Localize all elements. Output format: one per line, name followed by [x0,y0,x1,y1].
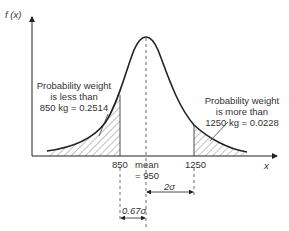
right-annotation: Probability weight is more than 1250 kg … [198,95,286,128]
span-label-2sigma: 2σ [164,181,175,192]
y-axis-label: f (x) [5,9,21,20]
left-annotation-line: 850 kg = 0.2514 [30,102,118,113]
tick-mean: mean [135,159,159,170]
tick-mean-value: = 950 [135,170,159,181]
span-label-067sigma: 0.67σ [122,205,146,216]
left-annotation-line: is less than [30,91,118,102]
left-annotation-line: Probability weight [30,80,118,91]
x-axis-label: x [264,160,269,171]
tick-850: 850 [112,159,128,170]
tick-1250: 1250 [185,159,206,170]
left-annotation: Probability weight is less than 850 kg =… [30,80,118,113]
right-annotation-line: is more than [198,106,286,117]
right-annotation-line: 1250 kg = 0.0228 [198,117,286,128]
right-annotation-line: Probability weight [198,95,286,106]
